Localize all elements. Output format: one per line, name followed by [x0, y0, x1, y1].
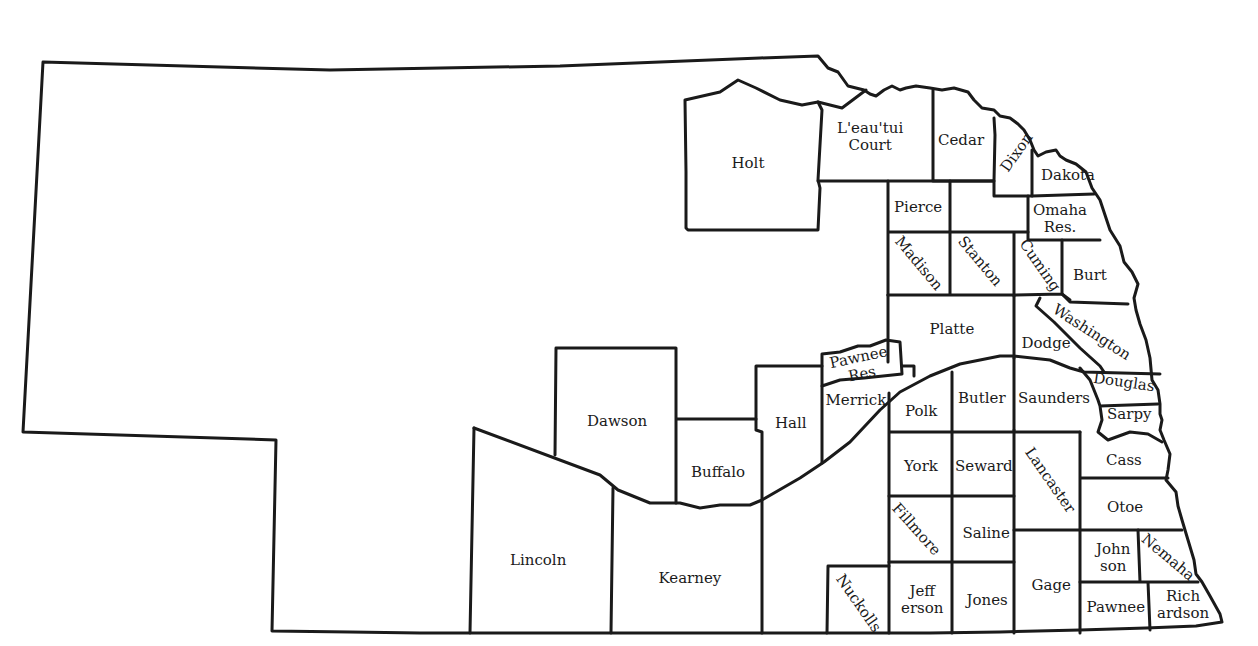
county-label-richardson: Richardson: [1157, 588, 1209, 622]
county-label-lincoln: Lincoln: [510, 552, 566, 569]
county-label-holt: Holt: [732, 155, 765, 172]
county-label-saunders: Saunders: [1018, 390, 1090, 407]
county-label-omaha-res: OmahaRes.: [1033, 202, 1087, 236]
county-label-seward: Seward: [955, 458, 1013, 475]
county-label-butler: Butler: [958, 390, 1006, 407]
county-label-otoe: Otoe: [1107, 499, 1143, 516]
county-label-cass: Cass: [1106, 452, 1142, 469]
county-label-cedar: Cedar: [938, 132, 984, 149]
county-label-merrick: Merrick: [826, 392, 887, 409]
county-label-saline: Saline: [963, 525, 1010, 542]
county-border-hall: [756, 366, 822, 633]
county-label-york: York: [904, 458, 938, 475]
county-label-jones: Jones: [967, 592, 1008, 609]
county-label-buffalo: Buffalo: [691, 464, 745, 481]
county-label-leautui-court: L'eau'tuiCourt: [837, 120, 903, 154]
county-label-sarpy: Sarpy: [1107, 406, 1151, 423]
county-label-platte: Platte: [930, 321, 975, 338]
county-label-hall: Hall: [775, 415, 807, 432]
county-label-polk: Polk: [905, 403, 937, 420]
county-label-dakota: Dakota: [1041, 167, 1095, 184]
county-label-dawson: Dawson: [587, 413, 647, 430]
county-label-johnson: Johnson: [1096, 541, 1130, 575]
county-label-kearney: Kearney: [659, 570, 722, 587]
county-label-burt: Burt: [1073, 267, 1107, 284]
county-label-pawnee: Pawnee: [1087, 599, 1146, 616]
county-label-jefferson: Jefferson: [901, 583, 943, 617]
county-label-dodge: Dodge: [1022, 335, 1071, 352]
county-label-pierce: Pierce: [894, 199, 942, 216]
county-label-gage: Gage: [1032, 577, 1071, 594]
county-border-lincoln: [470, 428, 613, 633]
